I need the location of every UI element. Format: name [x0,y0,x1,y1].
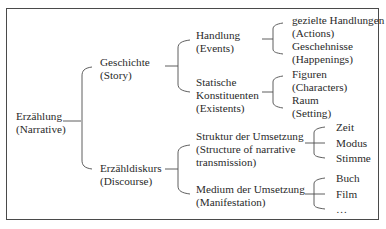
node-translation: (Narrative) [16,123,66,136]
node-label: Geschehnisse [292,40,353,53]
node-label: Konstituenten [196,89,259,102]
node-translation: (Existents) [196,102,259,115]
node-label: … [336,203,347,216]
node-manifestation: Medium der Umsetzung (Manifestation) [196,183,305,209]
node-translation: (Happenings) [292,53,353,66]
node-label: gezielte Handlungen [292,14,384,27]
node-label: Zeit [336,121,354,134]
bracket-root [82,67,92,169]
node-translation: (Discourse) [100,175,162,188]
node-label: Figuren [292,68,347,81]
node-translation: (Setting) [292,107,331,120]
node-label: Geschichte [100,56,150,69]
node-translation: (Characters) [292,81,347,94]
bracket-structure [314,127,325,158]
node-voice: Stimme [336,152,371,165]
node-film: Film [336,188,357,201]
node-setting: Raum (Setting) [292,94,331,120]
node-label: Buch [336,172,360,185]
node-narrative: Erzählung (Narrative) [16,110,66,136]
node-mode: Modus [336,137,367,150]
node-label: Medium der Umsetzung [196,183,305,196]
node-label: Struktur der Umsetzung [196,130,304,143]
node-translation: (Story) [100,69,150,82]
node-events: Handlung (Events) [196,29,240,55]
node-label: Raum [292,94,331,107]
node-structure: Struktur der Umsetzung (Structure of nar… [196,130,304,169]
node-label: Erzählung [16,110,66,123]
node-translation: (Structure of narrative [196,143,304,156]
node-translation: (Manifestation) [196,196,305,209]
bracket-events [273,23,283,54]
node-happenings: Geschehnisse (Happenings) [292,40,353,66]
bracket-manifestation [314,178,325,209]
node-label: Modus [336,137,367,150]
node-ellipsis: … [336,203,347,216]
node-translation: transmission) [196,156,304,169]
node-story: Geschichte (Story) [100,56,150,82]
bracket-discourse [178,145,190,194]
node-translation: (Actions) [292,27,384,40]
bracket-existents [273,76,283,108]
node-discourse: Erzähldiskurs (Discourse) [100,162,162,188]
node-actions: gezielte Handlungen (Actions) [292,14,384,40]
node-label: Handlung [196,29,240,42]
node-time: Zeit [336,121,354,134]
node-label: Statische [196,76,259,89]
node-label: Stimme [336,152,371,165]
node-book: Buch [336,172,360,185]
node-existents: Statische Konstituenten (Existents) [196,76,259,115]
node-characters: Figuren (Characters) [292,68,347,94]
node-translation: (Events) [196,42,240,55]
node-label: Film [336,188,357,201]
node-label: Erzähldiskurs [100,162,162,175]
bracket-story [178,40,190,92]
